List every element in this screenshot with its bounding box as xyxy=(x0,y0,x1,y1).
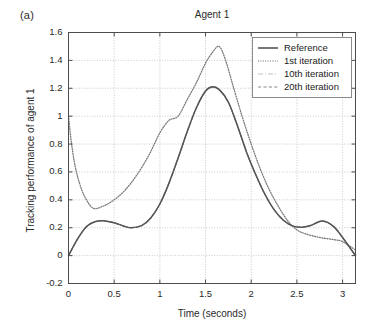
y-tick-label: 1.4 xyxy=(29,54,63,65)
legend-label: 20th iteration xyxy=(284,81,339,92)
legend-item-20th-iteration: 20th iteration xyxy=(257,80,347,93)
series-line-reference xyxy=(69,87,356,256)
legend-swatch-dashed-icon xyxy=(257,82,279,92)
x-tick-label: 1 xyxy=(143,288,177,299)
series-line-20th-iteration xyxy=(69,87,356,256)
legend-swatch-solid-icon xyxy=(257,43,279,53)
y-tick-label: 0.2 xyxy=(29,221,63,232)
y-tick-label: 0.6 xyxy=(29,165,63,176)
legend-item-reference: Reference xyxy=(257,41,347,54)
legend-label: Reference xyxy=(284,42,328,53)
x-tick-label: 2.5 xyxy=(280,288,314,299)
y-tick-label: 0.8 xyxy=(29,138,63,149)
y-tick-label: 0.4 xyxy=(29,193,63,204)
figure-container: (a) Agent 1 Tracking performance of agen… xyxy=(0,0,378,330)
x-tick-label: 2 xyxy=(234,288,268,299)
legend-item-10th-iteration: 10th iteration xyxy=(257,67,347,80)
legend-swatch-dotted-icon xyxy=(257,56,279,66)
series-line-10th-iteration xyxy=(69,87,356,256)
y-tick-label: 1 xyxy=(29,110,63,121)
y-tick-label: 1.6 xyxy=(29,26,63,37)
legend-item-1st-iteration: 1st iteration xyxy=(257,54,347,67)
x-tick-label: 0 xyxy=(52,288,86,299)
legend-label: 1st iteration xyxy=(284,55,333,66)
legend-swatch-dashdot-icon xyxy=(257,69,279,79)
x-tick-label: 0.5 xyxy=(97,288,131,299)
x-tick-label: 3 xyxy=(326,288,360,299)
chart-legend: Reference 1st iteration 10th iteration 2… xyxy=(252,37,352,98)
y-tick-label: 0 xyxy=(29,249,63,260)
legend-label: 10th iteration xyxy=(284,68,339,79)
y-tick-label: 1.2 xyxy=(29,82,63,93)
y-tick-label: -0.2 xyxy=(29,277,63,288)
x-tick-label: 1.5 xyxy=(189,288,223,299)
